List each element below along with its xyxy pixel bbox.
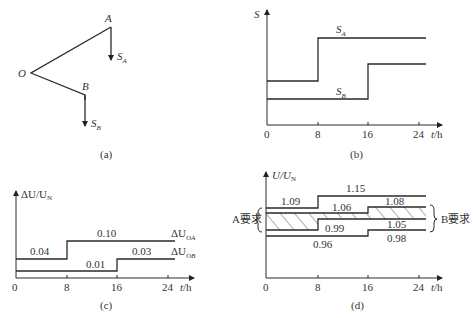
- y-axis-label: S: [254, 8, 260, 20]
- value-1-06: 1.06: [332, 201, 352, 213]
- panel-b-load-chart: S 0 8 16 24 t/h SA SB (b): [254, 8, 443, 161]
- network-lines: [31, 27, 111, 100]
- value-oa-low: 0.04: [30, 245, 50, 257]
- x-axis-label: t/h: [431, 281, 443, 293]
- node-a-label: A: [104, 12, 112, 24]
- figure-canvas: O A B SA SB (a) S 0 8 16 24 t/h SA SB (b…: [0, 0, 476, 318]
- x-tick-16: 16: [362, 128, 374, 140]
- value-0-98: 0.98: [387, 232, 407, 244]
- b-requirement-label: B要求: [441, 213, 470, 225]
- value-0-99: 0.99: [325, 222, 345, 234]
- load-sa-label: SA: [117, 50, 128, 65]
- a-requirement-label: A要求: [232, 213, 262, 225]
- x-tick-8: 8: [64, 281, 70, 293]
- x-tick-16: 16: [111, 281, 123, 293]
- x-tick-0: 0: [264, 128, 270, 140]
- series-sa-label: SA: [336, 23, 347, 38]
- x-tick-24: 24: [162, 281, 174, 293]
- value-oa-high: 0.10: [97, 227, 117, 239]
- value-0-96: 0.96: [313, 238, 333, 250]
- x-tick-8: 8: [315, 281, 321, 293]
- x-axis-label: t/h: [180, 281, 192, 293]
- node-b-label: B: [82, 80, 89, 92]
- x-axis-label: t/h: [431, 128, 443, 140]
- value-1-05: 1.05: [387, 218, 407, 230]
- x-tick-24: 24: [413, 128, 425, 140]
- value-1-09: 1.09: [281, 195, 301, 207]
- b-requirement-brace: [430, 205, 437, 232]
- panel-c-voltage-drop-chart: ΔU/UN 0 8 16 24 t/h 0.04 0.10 0.01 0.03 …: [12, 188, 196, 312]
- x-tick-0: 0: [263, 281, 269, 293]
- panel-a-network-diagram: O A B SA SB (a): [18, 12, 128, 161]
- value-1-15: 1.15: [346, 182, 366, 194]
- caption-c: (c): [100, 299, 113, 312]
- value-1-08: 1.08: [385, 195, 405, 207]
- panel-d-voltage-requirement-chart: U/UN 0 8 16 24 t/h 1.09 1.15 1.06 1.08 0…: [232, 169, 470, 312]
- series-sa-line: [267, 38, 426, 81]
- value-ob-low: 0.01: [86, 258, 105, 270]
- x-tick-24: 24: [413, 281, 425, 293]
- load-sb-label: SB: [91, 117, 102, 132]
- y-axis-label: ΔU/UN: [21, 188, 52, 202]
- x-tick-16: 16: [362, 281, 374, 293]
- x-tick-0: 0: [12, 281, 18, 293]
- series-oa-label: ΔUOA: [171, 227, 196, 242]
- series-sb-label: SB: [336, 85, 347, 100]
- caption-a: (a): [100, 148, 113, 161]
- caption-d: (d): [351, 299, 364, 312]
- node-o-label: O: [18, 67, 26, 79]
- value-ob-high: 0.03: [132, 245, 152, 257]
- y-axis-label: U/UN: [272, 169, 296, 183]
- caption-b: (b): [350, 148, 363, 161]
- x-tick-8: 8: [315, 128, 321, 140]
- series-ob-label: ΔUOB: [171, 245, 196, 260]
